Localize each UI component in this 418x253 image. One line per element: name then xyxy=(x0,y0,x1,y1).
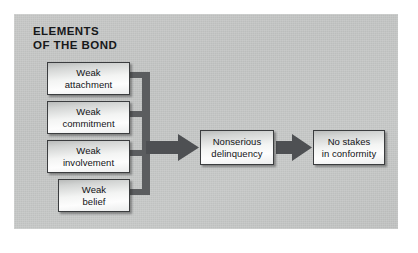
diagram-title-line-1: ELEMENTS xyxy=(33,24,223,38)
arrow-bus-to-nonserious xyxy=(146,134,199,161)
node-weak-attachment-label: Weak attachment xyxy=(65,67,113,90)
arrow-nonserious-to-nostakes xyxy=(276,134,312,161)
node-weak-belief-label: Weak belief xyxy=(82,184,106,207)
node-no-stakes-in-conformity[interactable]: No stakes in conformity xyxy=(313,130,385,165)
node-weak-involvement[interactable]: Weak involvement xyxy=(47,140,130,173)
figure-canvas: ELEMENTS OF THE BOND Weak attachment Wea… xyxy=(0,0,418,253)
node-weak-involvement-label: Weak involvement xyxy=(63,145,114,168)
node-nonserious-delinquency[interactable]: Nonserious delinquency xyxy=(200,130,274,165)
node-weak-commitment[interactable]: Weak commitment xyxy=(47,101,130,134)
node-weak-belief[interactable]: Weak belief xyxy=(58,179,130,212)
node-no-stakes-in-conformity-label: No stakes in conformity xyxy=(322,136,377,159)
node-nonserious-delinquency-label: Nonserious delinquency xyxy=(211,136,262,159)
node-weak-attachment[interactable]: Weak attachment xyxy=(47,62,130,95)
node-weak-commitment-label: Weak commitment xyxy=(62,106,114,129)
diagram-title: ELEMENTS OF THE BOND xyxy=(33,24,223,52)
diagram-title-line-2: OF THE BOND xyxy=(33,38,223,52)
